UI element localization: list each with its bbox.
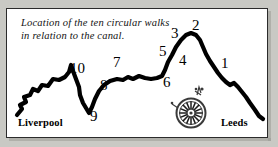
walk-label-8: 8	[100, 78, 108, 93]
frame-shadow-right	[268, 11, 271, 141]
walk-label-2: 2	[192, 18, 200, 33]
walk-label-1: 1	[221, 56, 229, 71]
city-label-liverpool: Liverpool	[18, 118, 63, 129]
map-frame: Location of the ten circular walks in re…	[6, 8, 268, 138]
walk-label-9: 9	[90, 109, 98, 124]
compass-rose-icon	[168, 84, 214, 132]
walk-label-5: 5	[159, 44, 167, 59]
walk-label-10: 10	[70, 61, 85, 76]
city-label-leeds: Leeds	[221, 118, 248, 129]
walk-label-6: 6	[163, 75, 171, 90]
walk-label-4: 4	[179, 53, 187, 68]
map-caption: Location of the ten circular walks in re…	[21, 17, 169, 42]
walk-label-3: 3	[171, 26, 179, 41]
canal-line	[17, 33, 263, 119]
map-figure: Location of the ten circular walks in re…	[0, 0, 278, 147]
walk-label-7: 7	[113, 55, 121, 70]
frame-shadow-bottom	[9, 138, 271, 141]
